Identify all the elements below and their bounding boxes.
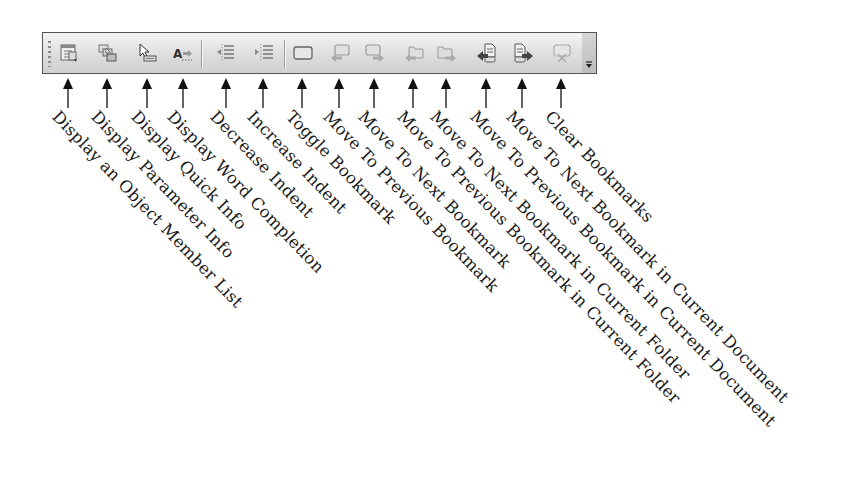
callout-arrow-icon <box>177 78 189 108</box>
svg-text:A: A <box>173 47 183 61</box>
next-bookmark-folder-button[interactable] <box>434 40 460 66</box>
callout-arrow-icon <box>516 78 528 108</box>
display-member-list-button[interactable] <box>56 40 82 66</box>
next-bookmark-folder-icon <box>436 42 458 64</box>
next-bookmark-icon <box>364 42 386 64</box>
callout-arrow-icon <box>141 78 153 108</box>
next-bookmark-document-button[interactable] <box>510 40 536 66</box>
next-bookmark-button[interactable] <box>362 40 388 66</box>
toolbar-separator <box>284 40 285 68</box>
callout-arrow-icon <box>480 78 492 108</box>
increase-indent-button[interactable] <box>251 40 277 66</box>
callout-arrow-icon <box>296 78 308 108</box>
decrease-indent-icon <box>215 42 237 64</box>
display-word-completion-button[interactable]: A <box>170 40 196 66</box>
previous-bookmark-icon <box>329 42 351 64</box>
callout-arrow-icon <box>333 78 345 108</box>
callout-arrow-icon <box>101 78 113 108</box>
previous-bookmark-folder-icon <box>403 42 425 64</box>
parameter-info-icon <box>97 42 119 64</box>
text-editor-toolbar: A <box>42 32 597 74</box>
bookmark-icon <box>292 42 314 64</box>
previous-bookmark-document-button[interactable] <box>474 40 500 66</box>
previous-bookmark-folder-button[interactable] <box>401 40 427 66</box>
toolbar-overflow-button[interactable] <box>582 33 596 73</box>
toolbar-separator <box>201 40 202 68</box>
callout-arrow-icon <box>220 78 232 108</box>
callout-arrow-icon <box>440 78 452 108</box>
word-completion-icon: A <box>172 42 194 64</box>
callout-arrow-icon <box>555 78 567 108</box>
toggle-bookmark-button[interactable] <box>290 40 316 66</box>
callout-arrow-icon <box>368 78 380 108</box>
quick-info-icon <box>136 42 158 64</box>
next-bookmark-document-icon <box>512 42 534 64</box>
clear-bookmarks-button[interactable] <box>549 40 575 66</box>
previous-bookmark-document-icon <box>476 42 498 64</box>
callout-arrow-icon <box>257 78 269 108</box>
clear-bookmarks-icon <box>551 42 573 64</box>
increase-indent-icon <box>253 42 275 64</box>
toolbar-overflow-icon <box>585 61 593 69</box>
callout-label: Move To Previous Bookmark in Current Doc… <box>466 107 779 431</box>
callout-arrow-icon <box>407 78 419 108</box>
decrease-indent-button[interactable] <box>213 40 239 66</box>
toolbar-grip-handle[interactable] <box>48 41 51 67</box>
previous-bookmark-button[interactable] <box>327 40 353 66</box>
display-parameter-info-button[interactable] <box>95 40 121 66</box>
display-quick-info-button[interactable] <box>134 40 160 66</box>
member-list-icon <box>58 42 80 64</box>
callout-arrow-icon <box>62 78 74 108</box>
